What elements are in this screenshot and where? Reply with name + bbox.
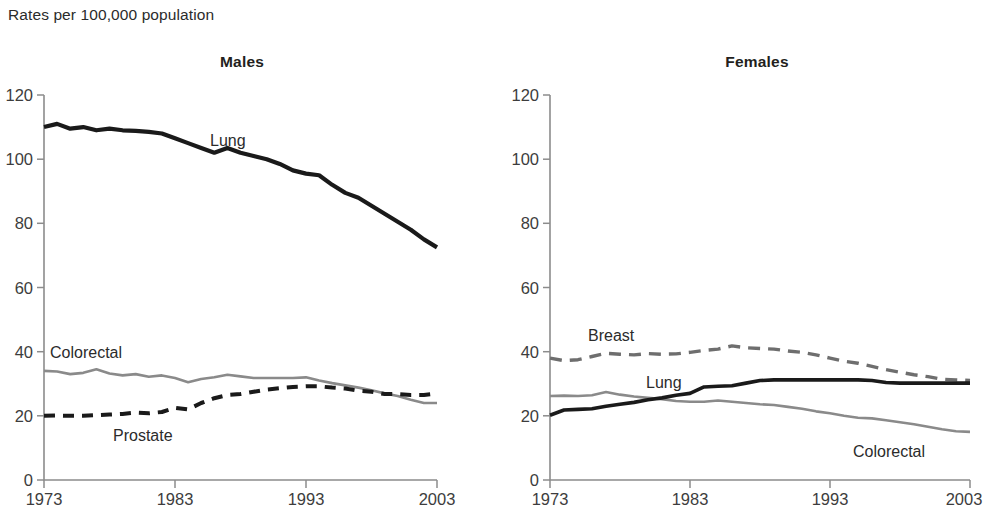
females-y-tick-labels: 120 100 80 60 40 20 0: [511, 86, 539, 489]
females-plot: 120 100 80 60 40 20 0 1973 1983 1993 200…: [495, 0, 991, 509]
males-ytick-80: 80: [15, 214, 33, 232]
males-plot: 120 100 80 60 40 20 0 1973 1983 1993 200…: [0, 0, 496, 509]
males-x-tick-labels: 1973 1983 1993 2003: [26, 490, 456, 508]
males-ytick-20: 20: [15, 407, 33, 425]
males-xtick-2003: 2003: [419, 490, 456, 508]
males-ytick-0: 0: [24, 471, 33, 489]
females-ytick-80: 80: [521, 214, 539, 232]
males-y-tick-labels: 120 100 80 60 40 20 0: [5, 86, 33, 489]
series-label-prostate-males: Prostate: [113, 427, 173, 444]
males-xtick-1993: 1993: [288, 490, 325, 508]
males-x-ticks: [44, 480, 437, 488]
males-ytick-100: 100: [5, 150, 33, 168]
males-xtick-1983: 1983: [157, 490, 194, 508]
panel-females: Females 120 100 80 60 40 20 0: [495, 0, 991, 509]
males-ytick-40: 40: [15, 343, 33, 361]
series-line-colorectal-females: [550, 392, 970, 432]
females-xtick-1993: 1993: [812, 490, 849, 508]
females-ytick-0: 0: [530, 471, 539, 489]
females-xtick-1983: 1983: [672, 490, 709, 508]
chart-page: Rates per 100,000 population Males 120 1…: [0, 0, 991, 509]
series-label-lung-males: Lung: [210, 132, 246, 149]
females-x-tick-labels: 1973 1983 1993 2003: [532, 490, 983, 508]
series-label-colorectal-females: Colorectal: [853, 443, 925, 460]
females-ytick-60: 60: [521, 279, 539, 297]
series-line-lung-females: [550, 380, 970, 415]
females-ytick-100: 100: [511, 150, 539, 168]
panel-males: Males 120 100 80 60 40 20 0: [0, 0, 496, 509]
females-ytick-20: 20: [521, 407, 539, 425]
females-x-ticks: [550, 480, 970, 488]
series-label-lung-females: Lung: [646, 374, 682, 391]
females-ytick-120: 120: [511, 86, 539, 104]
females-y-ticks: [543, 95, 550, 480]
series-label-colorectal-males: Colorectal: [50, 344, 122, 361]
series-line-colorectal-males: [44, 369, 437, 403]
females-xtick-1973: 1973: [532, 490, 569, 508]
males-xtick-1973: 1973: [26, 490, 63, 508]
males-ytick-120: 120: [5, 86, 33, 104]
males-y-ticks: [37, 95, 44, 480]
females-xtick-2003: 2003: [946, 490, 983, 508]
males-ytick-60: 60: [15, 279, 33, 297]
series-label-breast-females: Breast: [588, 327, 635, 344]
females-ytick-40: 40: [521, 343, 539, 361]
series-line-breast-females: [550, 346, 970, 381]
